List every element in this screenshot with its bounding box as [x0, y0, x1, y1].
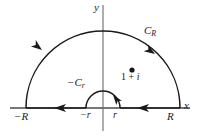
outer-arc-label-subscript: R: [151, 29, 156, 38]
singularity-point-label: 1 + i: [121, 72, 139, 82]
tick-label-r: r: [113, 110, 117, 120]
contour-diagram: y x −R −r r R CR −Cr 1 + i: [0, 0, 197, 138]
arrowhead-inner-arc: [110, 93, 122, 105]
tick-label-minus-r: −r: [80, 110, 91, 120]
tick-label-R: R: [167, 111, 174, 122]
outer-arc-label: CR: [144, 25, 156, 38]
tick-label-minus-R: −R: [14, 111, 28, 122]
y-axis-label: y: [94, 2, 99, 13]
arrowhead-outer-arc-left: [31, 40, 45, 53]
inner-arc-label-subscript: r: [82, 81, 85, 90]
point-label-imaginary-unit: i: [137, 71, 140, 82]
inner-arc-label: −Cr: [67, 77, 85, 90]
inner-arc-label-main: −C: [67, 76, 82, 88]
point-label-plus-sign: +: [126, 71, 137, 82]
x-axis-label: x: [184, 100, 189, 111]
